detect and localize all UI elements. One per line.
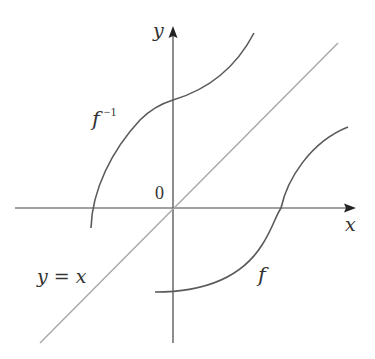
identity-line [40, 43, 338, 343]
x-axis-label: x [345, 213, 356, 235]
identity-line-label: y = x [36, 265, 87, 287]
function-label: f [256, 263, 269, 287]
graph-canvas: y x 0 f−1 f y = x [0, 0, 375, 359]
function-curve [155, 127, 348, 292]
origin-label: 0 [155, 183, 164, 203]
inverse-superscript: −1 [104, 105, 117, 119]
y-axis-label: y [152, 19, 164, 41]
inverse-function-label: f−1 [90, 105, 117, 131]
